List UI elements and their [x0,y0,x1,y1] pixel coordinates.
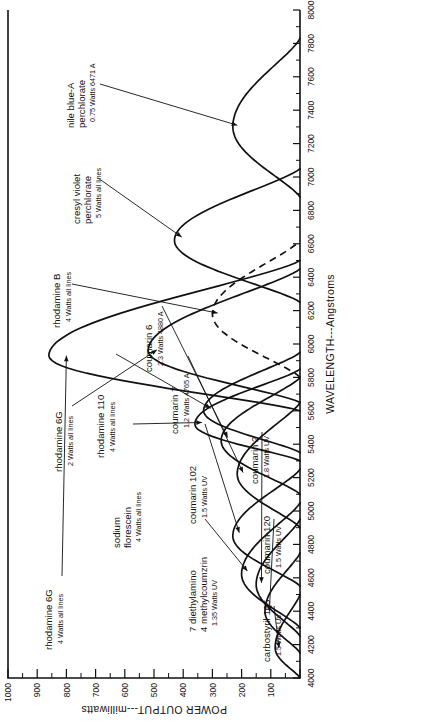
dye-label: rhodamine B [51,274,62,328]
leader-arrowhead [235,527,239,533]
leader-arrowhead [212,310,218,315]
dye-pump-power: 2.3 Watts 4880 A [156,311,165,366]
dye-laser-tuning-curves-svg: 4000420044004600480050005200540056005800… [0,0,372,724]
dye-pump-power: 0.75 Watts 6471 A [88,63,97,122]
dye-pump-power: 1.5 Watts UV [200,476,209,518]
dye-pump-power: 4 Watts all lines [134,492,143,542]
x-tick-label: 6400 [306,267,316,286]
dye-label: coumarin 6 [143,325,154,372]
x-tick-label: 6600 [306,234,316,253]
dye-annotation: carbostyril 1651.5 Watts UV [261,600,283,662]
dye-label-line2: 4 methylcoumzrin [198,557,209,632]
x-tick-label: 5400 [306,434,316,453]
x-tick-label: 7600 [306,67,316,86]
leader-arrowhead [64,356,69,362]
y-tick-label: 600 [120,683,130,697]
y-tick-label: 200 [237,683,247,697]
dye-label: rhodamine 110 [95,395,106,458]
dye-label-line2: perchlorate [76,80,87,128]
dye-pump-power: 4 Watts all lines [108,402,117,452]
x-tick-label: 7000 [306,167,316,186]
x-tick-label: 5200 [306,468,316,487]
dye-annotation: nile blue-Aperchlorate0.75 Watts 6471 A [65,63,237,128]
leader-arrowhead [231,121,237,126]
dye-label: coumarin 7 [169,387,180,434]
tuning-curve [233,38,300,197]
x-tick-label: 8000 [306,0,316,19]
dye-label: cresyl violet [71,174,82,224]
dye-label-line2: florescein [122,507,133,548]
dye-pump-power: 2 Watts all lines [66,416,75,466]
y-tick-label: 400 [178,683,188,697]
leader-line [133,422,202,424]
y-tick-label: 800 [62,683,72,697]
leader-line [72,350,157,406]
dye-pump-power: 1.2 Watts 4765 A [182,373,191,428]
dye-label: coumarin 102 [187,466,198,524]
dye-pump-power: 4 Watts all lines [56,594,65,644]
dye-label: 7 diethylamino [187,570,198,632]
y-tick-label: 1000 [3,683,13,702]
x-tick-label: 4000 [306,668,316,687]
dye-annotation: coumarin 71.2 Watts 4765 A [169,356,243,473]
dye-pump-power: 4 Watts all lines [64,272,73,322]
rotated-plot-wrapper: 4000420044004600480050005200540056005800… [0,0,438,724]
leader-arrowhead [259,577,264,583]
leader-line [72,284,218,313]
leader-line [261,432,262,583]
dye-annotation: cresyl violetperchlorate5 Watts all line… [71,168,182,238]
x-tick-label: 4400 [306,601,316,620]
tuning-curve [175,169,301,303]
x-tick-label: 7400 [306,100,316,119]
dye-pump-power: 1.8 Watts UV [262,436,271,478]
x-tick-label: 5800 [306,368,316,387]
dye-label: sodium [111,517,122,548]
x-tick-label: 4600 [306,568,316,587]
x-tick-label: 4800 [306,535,316,554]
leader-line [205,519,247,571]
y-tick-label: 700 [91,683,101,697]
dye-annotation: rhodamine B4 Watts all lines [51,272,218,328]
dye-label: nile blue-A [65,82,76,128]
leader-line [100,84,237,125]
x-tick-label: 6200 [306,301,316,320]
x-tick-label: 4200 [306,635,316,654]
y-tick-label: 100 [266,683,276,697]
dye-label: coumarin 2 [249,437,260,484]
leader-arrowhead [196,420,202,425]
dye-label: rhodamine 6G [53,411,64,472]
dye-label-line2: perchlorate [82,176,93,224]
dye-annotation: rhodamine 6G4 Watts all lines [43,356,69,650]
y-tick-label: 300 [208,683,218,697]
dye-annotation: coumarin 1021.5 Watts UV [187,424,240,533]
dye-pump-power: 1.5 Watts UV [274,526,283,568]
tuning-curve [148,269,300,403]
tuning-curve [212,241,300,378]
y-tick-label: 500 [149,683,159,697]
x-tick-label: 7800 [306,34,316,53]
x-tick-label: 5600 [306,401,316,420]
x-tick-label: 6000 [306,334,316,353]
dye-annotation: 7 diethylamino4 methylcoumzrin1.35 Watts… [187,519,247,632]
dye-pump-power: 1.35 Watts UV [210,580,219,626]
dye-label: rhodamine 6G [43,589,54,650]
chart-plot: 4000420044004600480050005200540056005800… [0,0,372,724]
x-axis-label: WAVELENGTH---Angstroms [324,274,336,414]
dye-pump-power: 5 Watts all lines [94,168,103,218]
x-tick-label: 7200 [306,134,316,153]
tuning-curve [221,377,300,494]
x-tick-label: 5000 [306,501,316,520]
leader-line [98,178,182,237]
figure-container: 4000420044004600480050005200540056005800… [0,0,438,724]
x-tick-label: 6800 [306,201,316,220]
dye-label: coumarin 120 [261,516,272,574]
y-tick-label: 900 [32,683,42,697]
y-axis-label: POWER OUTPUT---milliwatts [81,704,227,716]
